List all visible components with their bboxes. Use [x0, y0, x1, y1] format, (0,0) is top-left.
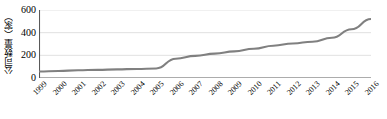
x-axis-tick-label: 2014 [325, 80, 342, 97]
x-axis-tick-label: 2007 [188, 80, 205, 97]
plot-area [39, 10, 371, 78]
x-axis-tick-label: 2001 [71, 80, 88, 97]
x-axis-tick-label: 2012 [286, 80, 303, 97]
x-axis-tick-label: 2009 [227, 80, 244, 97]
y-axis-tick-labels: 0200400600 [14, 0, 36, 86]
data-series-line [39, 19, 371, 71]
y-axis-tick-label: 200 [14, 50, 36, 60]
gridlines [39, 10, 371, 78]
x-axis-tick-label: 2011 [266, 80, 283, 97]
x-axis-tick-label: 2000 [51, 80, 68, 97]
x-axis-tick-label: 2006 [168, 80, 185, 97]
y-axis-tick-label: 400 [14, 28, 36, 38]
axis-lines [39, 10, 40, 78]
y-axis-title-text: 公司数量（家） [4, 12, 13, 75]
x-axis-tick-label: 2013 [305, 80, 322, 97]
x-axis-tick-label: 2004 [129, 80, 146, 97]
x-axis-tick-label: 2008 [207, 80, 224, 97]
x-axis-tick-labels: 1999200020012002200320042005200620072008… [39, 80, 371, 119]
x-axis-tick-label: 2015 [344, 80, 361, 97]
x-axis-tick-label: 2005 [149, 80, 166, 97]
line-chart: 公司数量（家） 0200400600 199920002001200220032… [0, 0, 387, 119]
plot-svg [39, 10, 371, 78]
x-axis-tick-label: 2010 [246, 80, 263, 97]
x-axis-tick-label: 2003 [110, 80, 127, 97]
x-axis-tick-label: 2002 [90, 80, 107, 97]
x-axis-tick-label: 2016 [364, 80, 381, 97]
y-axis-tick-label: 600 [14, 5, 36, 15]
y-axis-tick-label: 0 [14, 73, 36, 83]
